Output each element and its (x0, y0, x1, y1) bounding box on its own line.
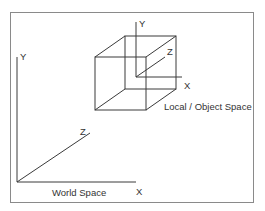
local-object-space-label: Local / Object Space (164, 101, 252, 112)
world-z-label: Z (80, 126, 86, 137)
local-x-label: X (184, 80, 191, 91)
local-y-label: Y (139, 18, 146, 29)
world-space-label: World Space (52, 187, 106, 198)
local-z-label: Z (167, 46, 173, 57)
coordinate-space-diagram: Y X Z World Space Y X Z Local / Object S… (0, 0, 265, 211)
world-x-label: X (136, 186, 143, 197)
world-y-label: Y (20, 51, 27, 62)
